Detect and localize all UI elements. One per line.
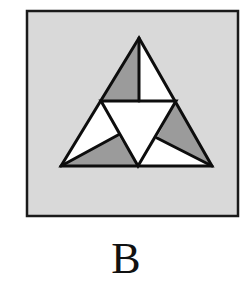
figure-label: B [0, 236, 252, 282]
triangle-puzzle-figure [0, 0, 252, 230]
